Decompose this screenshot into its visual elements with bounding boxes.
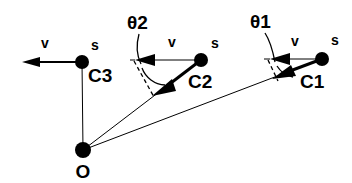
origin-dot xyxy=(75,142,91,158)
speed-label-c3: s xyxy=(91,37,99,53)
angle-label-theta1: θ1 xyxy=(250,11,271,32)
group-c3: v s C3 xyxy=(22,35,112,86)
speed-label-c1: s xyxy=(331,32,339,48)
vector-diagram-canvas: v s C3 v s C2 θ2 xyxy=(0,0,352,183)
velocity-label-c3: v xyxy=(41,35,49,51)
radial-arrowhead-c2 xyxy=(152,79,176,96)
origin-label: O xyxy=(76,161,91,182)
velocity-label-c2: v xyxy=(168,34,176,50)
point-label-c1: C1 xyxy=(300,71,325,92)
velocity-label-c1: v xyxy=(291,33,299,49)
point-label-c3: C3 xyxy=(88,65,112,86)
speed-label-c2: s xyxy=(211,35,219,51)
point-label-c2: C2 xyxy=(188,71,212,92)
group-c2: v s C2 θ2 xyxy=(127,12,219,97)
group-c1: v s C1 θ1 xyxy=(250,11,339,92)
group-origin: O xyxy=(75,142,91,182)
radial-line-o-to-c3 xyxy=(82,62,83,150)
dashed-reference-line-c2 xyxy=(134,61,154,97)
theta1-leader-line xyxy=(265,33,275,62)
velocity-arrowhead-c3 xyxy=(22,57,40,67)
angle-label-theta2: θ2 xyxy=(127,12,148,33)
particle-dot-c1 xyxy=(315,52,329,66)
particle-dot-c3 xyxy=(75,55,89,69)
vector-geometry-diagram: v s C3 v s C2 θ2 xyxy=(0,0,352,183)
particle-dot-c2 xyxy=(194,53,208,67)
